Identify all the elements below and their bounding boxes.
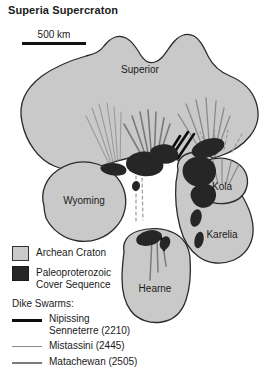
- legend-item-paleoproterozoic-cover: Paleoproterozoic Cover Sequence: [12, 266, 162, 290]
- craton-superior-shape: [21, 34, 258, 170]
- paleoproterozoic-label-line1: Paleoproterozoic: [36, 267, 111, 279]
- legend-item-mistassini: Mistassini (2445): [12, 340, 162, 352]
- craton-label-superior: Superior: [121, 64, 159, 75]
- matachewan-line-swatch: [12, 362, 42, 364]
- nipissing-line-swatch: [12, 319, 42, 322]
- legend-item-archean-craton: Archean Craton: [12, 246, 162, 261]
- mistassini-line-swatch: [12, 346, 42, 347]
- legend-item-nipissing-senneterre: Nipissing Senneterre (2210): [12, 313, 162, 336]
- paleoproterozoic-swatch: [12, 266, 29, 281]
- matachewan-label: Matachewan (2505): [49, 356, 137, 368]
- archean-craton-swatch: [12, 246, 29, 261]
- nipissing-label-line2: Senneterre (2210): [49, 325, 130, 337]
- mistassini-label: Mistassini (2445): [49, 340, 125, 352]
- craton-label-kola: Kola: [212, 181, 232, 192]
- craton-label-karelia: Karelia: [206, 229, 238, 240]
- figure-container: Superia Supercraton 500 km: [0, 0, 272, 377]
- legend: Archean Craton Paleoproterozoic Cover Se…: [12, 246, 162, 371]
- dike-swarms-heading: Dike Swarms:: [12, 298, 162, 309]
- nipissing-label-line1: Nipissing: [49, 313, 130, 325]
- legend-item-matachewan: Matachewan (2505): [12, 356, 162, 368]
- craton-label-wyoming: Wyoming: [63, 195, 105, 206]
- archean-craton-label: Archean Craton: [36, 246, 106, 259]
- paleoproterozoic-label-line2: Cover Sequence: [36, 279, 111, 291]
